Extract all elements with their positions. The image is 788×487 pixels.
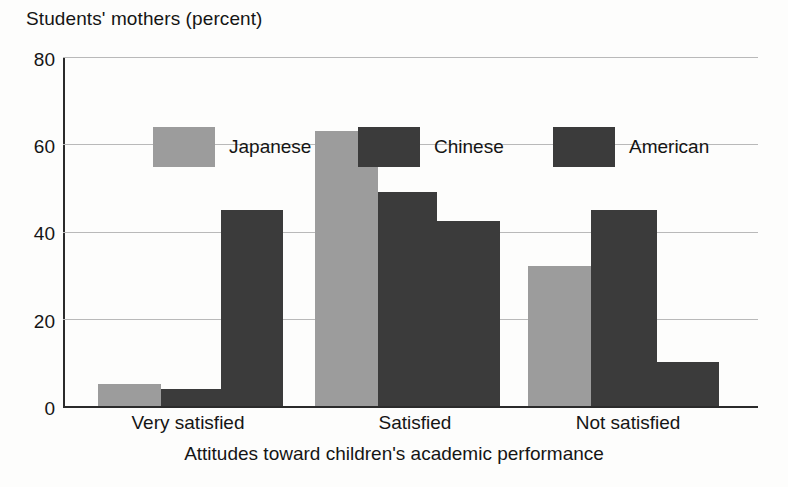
bar-very-satisfied-american[interactable] [221,210,283,406]
bar-not-satisfied-chinese[interactable] [591,210,657,406]
bar-not-satisfied-japanese[interactable] [528,266,591,406]
y-axis-tick-labels: 80 60 40 20 0 [0,57,55,407]
y-tick-40: 40 [9,224,55,243]
y-tick-80: 80 [9,50,55,69]
bar-satisfied-chinese[interactable] [378,192,437,406]
bar-very-satisfied-japanese[interactable] [98,384,161,406]
y-tick-60: 60 [9,137,55,156]
legend-swatch-american-icon [553,127,615,167]
legend-label-chinese: Chinese [434,136,504,158]
chart-legend: Japanese Chinese American [153,123,753,171]
legend-swatch-japanese-icon [153,127,215,167]
page-title: Students' mothers (percent) [26,8,263,30]
bar-very-satisfied-chinese[interactable] [161,389,221,407]
legend-item-american[interactable]: American [553,123,709,171]
x-category-very-satisfied: Very satisfied [63,412,313,434]
legend-item-japanese[interactable]: Japanese [153,123,311,171]
bar-satisfied-japanese[interactable] [315,131,378,406]
legend-label-american: American [629,136,709,158]
gridline-80 [63,57,758,58]
x-axis-line [63,406,758,408]
legend-label-japanese: Japanese [229,136,311,158]
legend-swatch-chinese-icon [358,127,420,167]
plot-area: Japanese Chinese American [63,57,758,406]
y-tick-20: 20 [9,312,55,331]
bar-not-satisfied-american[interactable] [657,362,719,406]
chart-figure: Students' mothers (percent) 80 60 40 20 … [0,0,788,487]
legend-item-chinese[interactable]: Chinese [358,123,504,171]
y-tick-0: 0 [9,399,55,418]
x-category-satisfied: Satisfied [315,412,515,434]
x-axis-title: Attitudes toward children's academic per… [0,443,788,465]
x-category-not-satisfied: Not satisfied [528,412,728,434]
bar-satisfied-american[interactable] [437,221,500,406]
